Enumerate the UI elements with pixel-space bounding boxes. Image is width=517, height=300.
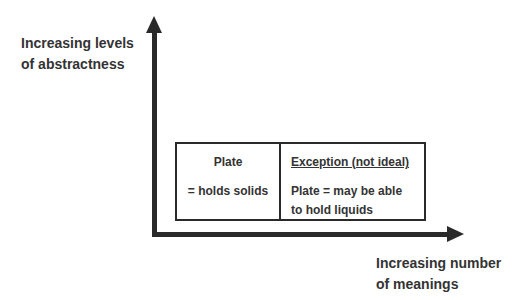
exception-line1: Plate = may be able <box>291 182 424 201</box>
x-axis-arrowhead-icon <box>447 226 464 242</box>
exception-line2: to hold liquids <box>291 201 424 220</box>
y-axis-label: Increasing levels of abstractness <box>21 33 134 75</box>
plate-definition: = holds solids <box>177 182 279 201</box>
table-cell-plate: Plate = holds solids <box>177 144 281 219</box>
x-axis-label-line2: of meanings <box>376 274 501 295</box>
table-cell-exception: Exception (not ideal) Plate = may be abl… <box>281 144 424 219</box>
x-axis-label-line1: Increasing number <box>376 253 501 274</box>
y-axis-label-line1: Increasing levels <box>21 33 134 54</box>
y-axis-line <box>152 30 157 237</box>
plate-heading: Plate <box>177 154 279 170</box>
x-axis-label: Increasing number of meanings <box>376 253 501 295</box>
comparison-table: Plate = holds solids Exception (not idea… <box>175 142 426 221</box>
exception-definition: Plate = may be able to hold liquids <box>291 182 424 220</box>
exception-heading: Exception (not ideal) <box>291 154 424 170</box>
x-axis-line <box>152 232 450 237</box>
y-axis-label-line2: of abstractness <box>21 54 134 75</box>
